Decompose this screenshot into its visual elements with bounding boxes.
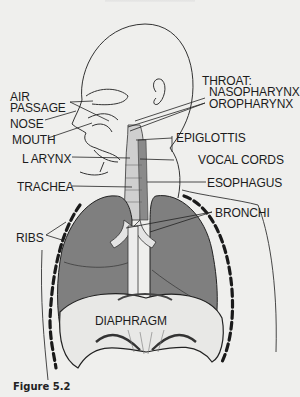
label-bronchi: BRONCHI xyxy=(215,207,270,219)
label-mouth: MOUTH xyxy=(12,134,56,146)
label-epiglottis: EPIGLOTTIS xyxy=(176,132,246,144)
label-esophagus: ESOPHAGUS xyxy=(207,177,282,189)
label-oropharynx: OROPHARYNX xyxy=(209,98,293,110)
label-larynx: L ARYNX xyxy=(22,153,71,165)
label-nose: NOSE xyxy=(10,118,44,130)
label-vocal-cords: VOCAL CORDS xyxy=(198,154,284,166)
diaphragm xyxy=(60,294,224,368)
label-trachea: TRACHEA xyxy=(17,181,74,193)
label-ribs: RIBS xyxy=(16,232,44,244)
respiratory-diagram: AIR PASSAGE NOSE MOUTH L ARYNX TRACHEA R… xyxy=(0,0,300,397)
figure-caption: Figure 5.2 xyxy=(13,381,70,392)
label-diaphragm: DIAPHRAGM xyxy=(95,315,167,327)
anatomy-illustration xyxy=(0,0,300,397)
label-passage: PASSAGE xyxy=(10,102,66,114)
